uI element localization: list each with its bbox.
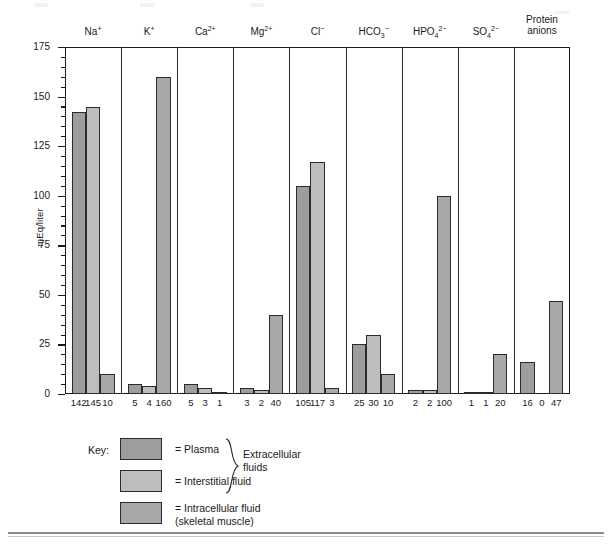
group-header-HPO42: HPO42− <box>402 26 458 37</box>
y-tick-label: 75 <box>14 240 50 250</box>
bar-plasma-HCO3 <box>352 344 366 394</box>
value-label: 100 <box>433 398 455 408</box>
y-tick-label: 100 <box>14 191 50 201</box>
y-tick-minor <box>61 216 66 217</box>
bar-intracellular-Na <box>100 374 114 394</box>
y-tick-label: 0 <box>14 389 50 399</box>
y-tick-minor <box>61 166 66 167</box>
y-tick-minor <box>61 255 66 256</box>
bar-interstitial-Ca2 <box>198 388 212 394</box>
value-label: 160 <box>152 398 174 408</box>
figure-page: mEq/liter 0255075100125150175 Na+K+Ca2+M… <box>0 0 612 545</box>
y-tick-label: 50 <box>14 290 50 300</box>
extracellular-brace-icon <box>224 438 240 494</box>
y-tick-major <box>58 295 65 296</box>
y-tick-label: 25 <box>14 339 50 349</box>
group-header-Cl: Cl− <box>289 26 345 37</box>
y-tick-minor <box>61 235 66 236</box>
group-separator <box>458 47 459 394</box>
bar-interstitial-K <box>142 386 156 394</box>
legend-label-plasma: = Plasma <box>175 443 219 456</box>
y-tick-major <box>58 47 65 48</box>
group-header-Na: Na+ <box>65 26 121 37</box>
group-header-K: K+ <box>121 26 177 37</box>
intracellular-swatch <box>120 502 162 524</box>
y-tick-minor <box>61 335 66 336</box>
y-tick-minor <box>61 77 66 78</box>
y-tick-label: 150 <box>14 92 50 102</box>
plot-border-right <box>569 47 570 394</box>
legend: Key: = Plasma = Interstitial fluid = Int… <box>0 432 612 528</box>
y-tick-minor <box>61 265 66 266</box>
bar-plasma-Proteinanions <box>520 362 534 394</box>
y-tick-minor <box>61 305 66 306</box>
y-tick-major <box>58 146 65 147</box>
bar-plasma-Ca2 <box>184 384 198 394</box>
value-label: 20 <box>489 398 511 408</box>
y-tick-major <box>58 245 65 246</box>
bar-intracellular-Mg2 <box>269 315 283 394</box>
bar-intracellular-K <box>156 77 170 394</box>
ecf-line1: Extracellular <box>243 448 301 461</box>
y-tick-minor <box>61 315 66 316</box>
y-tick-minor <box>61 57 66 58</box>
plasma-swatch <box>120 438 162 460</box>
key-label: Key: <box>88 444 109 456</box>
page-rule-primary <box>8 532 604 534</box>
y-tick-minor <box>61 186 66 187</box>
group-separator <box>121 47 122 394</box>
y-tick-minor <box>61 116 66 117</box>
plot-area <box>65 47 570 394</box>
bar-intracellular-Cl <box>325 388 339 394</box>
group-separator <box>177 47 178 394</box>
bar-plasma-HPO42 <box>408 390 422 394</box>
extracellular-fluids-label: Extracellular fluids <box>243 448 301 474</box>
bar-interstitial-Mg2 <box>254 390 268 394</box>
y-tick-minor <box>61 285 66 286</box>
y-tick-label: 175 <box>14 42 50 52</box>
y-tick-minor <box>61 67 66 68</box>
y-tick-minor <box>61 354 66 355</box>
group-header-Proteinanions: Proteinanions <box>514 14 570 36</box>
plot-border-left <box>65 47 66 394</box>
bar-plasma-Mg2 <box>240 388 254 394</box>
legend-label-intracellular: = Intracellular fluid <box>175 502 261 515</box>
y-tick-major <box>58 394 65 395</box>
bar-intracellular-HCO3 <box>381 374 395 394</box>
bar-intracellular-SO42 <box>493 354 507 394</box>
bar-chart: mEq/liter 0255075100125150175 Na+K+Ca2+M… <box>0 0 612 425</box>
bar-intracellular-Ca2 <box>212 392 226 394</box>
bar-plasma-SO42 <box>464 392 478 394</box>
y-tick-major <box>58 196 65 197</box>
value-label: 10 <box>96 398 118 408</box>
y-tick-minor <box>61 275 66 276</box>
y-tick-minor <box>61 384 66 385</box>
bar-interstitial-SO42 <box>479 392 493 394</box>
y-tick-minor <box>61 176 66 177</box>
y-tick-major <box>58 344 65 345</box>
bar-intracellular-Proteinanions <box>549 301 563 394</box>
y-tick-minor <box>61 106 66 107</box>
y-tick-minor <box>61 225 66 226</box>
group-separator <box>233 47 234 394</box>
y-tick-label: 125 <box>14 141 50 151</box>
y-tick-minor <box>61 374 66 375</box>
legend-label-intracellular-sub: (skeletal muscle) <box>175 515 254 528</box>
bar-interstitial-HCO3 <box>366 335 380 394</box>
interstitial-swatch <box>120 470 162 492</box>
y-tick-major <box>58 97 65 98</box>
bar-interstitial-Na <box>86 107 100 395</box>
bar-interstitial-HPO42 <box>423 390 437 394</box>
y-tick-minor <box>61 87 66 88</box>
value-label: 47 <box>545 398 567 408</box>
bar-plasma-Na <box>72 112 86 394</box>
group-header-SO42: SO42− <box>458 26 514 37</box>
bar-interstitial-Cl <box>310 162 324 394</box>
y-tick-minor <box>61 136 66 137</box>
group-separator <box>514 47 515 394</box>
bar-intracellular-HPO42 <box>437 196 451 394</box>
y-tick-minor <box>61 364 66 365</box>
group-separator <box>289 47 290 394</box>
ecf-line2: fluids <box>243 461 301 474</box>
value-label: 1 <box>208 398 230 408</box>
